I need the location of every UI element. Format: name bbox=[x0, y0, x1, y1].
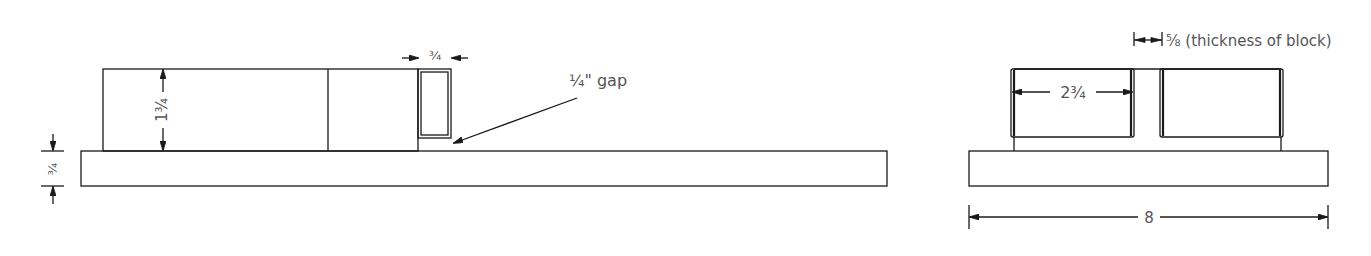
end-view: 2¾ ⅝ (thickness of block) 8 bbox=[969, 32, 1332, 229]
end-base-board bbox=[969, 151, 1328, 186]
small-block-inner bbox=[421, 72, 448, 135]
end-block-right bbox=[1160, 69, 1283, 137]
block-thickness-label: ⅝ (thickness of block) bbox=[1166, 32, 1332, 50]
small-block bbox=[418, 69, 451, 138]
overall-width-label: 8 bbox=[1144, 209, 1154, 227]
overall-width-dimension: 8 bbox=[969, 205, 1328, 229]
block-height-label: 1¾ bbox=[153, 98, 171, 123]
small-block-width-label: ¾ bbox=[429, 48, 442, 63]
jig-drawing: 1¾ ¾ ¾ ¼" gap bbox=[0, 0, 1371, 256]
small-block-width-dimension: ¾ bbox=[402, 48, 468, 63]
end-block-left bbox=[1011, 69, 1134, 137]
large-block bbox=[103, 69, 418, 151]
side-view: 1¾ ¾ ¾ ¼" gap bbox=[41, 48, 887, 204]
end-block-width-dimension: 2¾ bbox=[1013, 83, 1132, 102]
base-board bbox=[81, 151, 887, 186]
base-thickness-label: ¾ bbox=[45, 162, 60, 175]
gap-callout-label: ¼" gap bbox=[569, 71, 627, 90]
gap-callout: ¼" gap bbox=[454, 71, 627, 143]
block-thickness-dimension: ⅝ (thickness of block) bbox=[1134, 32, 1332, 50]
base-thickness-dimension: ¾ bbox=[41, 134, 64, 204]
end-block-width-label: 2¾ bbox=[1060, 83, 1086, 102]
block-height-dimension: 1¾ bbox=[153, 70, 171, 150]
